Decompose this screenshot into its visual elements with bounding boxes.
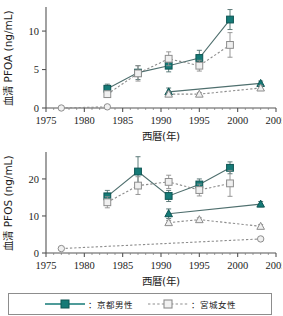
data-point-marker	[165, 219, 173, 226]
figure-legend: ：京都男性 ：宮城女性	[8, 293, 272, 315]
data-point-marker	[257, 200, 265, 207]
series-2	[165, 79, 265, 95]
data-point-marker	[104, 91, 111, 98]
x-axis-title: 西暦(年)	[142, 130, 180, 142]
data-point-marker	[257, 236, 263, 242]
data-point-marker	[104, 199, 111, 206]
data-point-marker	[257, 222, 265, 229]
data-point-marker	[58, 245, 64, 251]
legend-label-miyagi-female: ：宮城女性	[191, 298, 236, 310]
series-3	[165, 216, 265, 230]
legend-label-kyoto-male: ：京都男性	[88, 298, 133, 310]
x-tick-label: 1980	[74, 260, 95, 271]
x-tick-label: 1985	[112, 260, 133, 271]
x-tick-label: 1980	[74, 115, 95, 126]
x-tick-label: 1995	[189, 115, 210, 126]
legend-entry-kyoto-male: ：京都男性	[44, 298, 133, 310]
data-point-marker	[227, 180, 234, 187]
y-tick-label: 5	[34, 64, 39, 75]
x-tick-label: 1995	[189, 260, 210, 271]
x-tick-label: 2000	[227, 115, 248, 126]
data-point-marker	[165, 193, 172, 200]
x-tick-label: 2005	[266, 115, 283, 126]
legend-swatch-open-square-dotted	[147, 298, 189, 310]
figure-pfoa-pfos-trends: 19751980198519901995200020050510血清 PFOA …	[0, 0, 282, 316]
data-point-marker	[165, 178, 172, 185]
data-point-marker	[196, 62, 203, 69]
x-tick-label: 1990	[151, 260, 172, 271]
x-tick-label: 1985	[112, 115, 133, 126]
data-point-marker	[165, 55, 172, 62]
y-tick-label: 0	[34, 248, 39, 259]
chart-panel-pfos: 197519801985199019952000200501020血清 PFOS…	[0, 145, 282, 290]
pfos-plot: 197519801985199019952000200501020血清 PFOS…	[0, 145, 282, 290]
data-point-marker	[135, 168, 142, 175]
data-point-marker	[227, 42, 234, 49]
y-tick-label: 0	[34, 103, 39, 114]
data-point-marker	[227, 16, 234, 23]
y-tick-label: 10	[29, 26, 40, 37]
chart-panel-pfoa: 19751980198519901995200020050510血清 PFOA …	[0, 0, 282, 145]
x-tick-label: 2005	[266, 260, 283, 271]
series-2	[165, 200, 265, 218]
y-tick-label: 10	[29, 211, 40, 222]
legend-swatch-filled-square-solid	[44, 298, 86, 310]
x-tick-label: 1975	[36, 260, 57, 271]
x-tick-label: 1975	[36, 115, 57, 126]
data-point-marker	[196, 187, 203, 194]
series-4	[58, 236, 264, 252]
y-axis-title: 血清 PFOA (ng/mL)	[2, 10, 14, 105]
x-tick-label: 2000	[227, 260, 248, 271]
data-point-marker	[104, 104, 110, 110]
y-tick-label: 20	[29, 174, 40, 185]
x-tick-label: 1990	[151, 115, 172, 126]
pfoa-plot: 19751980198519901995200020050510血清 PFOA …	[0, 0, 282, 145]
data-point-marker	[58, 105, 64, 111]
x-axis-title: 西暦(年)	[142, 275, 180, 287]
data-point-marker	[135, 70, 142, 77]
legend-entry-miyagi-female: ：宮城女性	[147, 298, 236, 310]
y-axis-title: 血清 PFOS (ng/mL)	[2, 155, 14, 250]
data-point-marker	[135, 182, 142, 189]
data-point-marker	[196, 216, 204, 223]
